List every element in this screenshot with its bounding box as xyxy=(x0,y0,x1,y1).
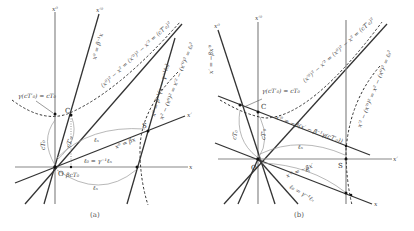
ray-2 xyxy=(258,159,298,204)
caption-b: (b) xyxy=(294,211,304,219)
arc-cT0 xyxy=(48,120,56,165)
origin-label: O xyxy=(58,170,64,178)
x-axis-label: x xyxy=(189,163,193,170)
ln-bottom-label: ℓₙ xyxy=(93,184,98,191)
l-contracted-label: ℓ₀ = γ⁻¹ℓₙ xyxy=(84,157,112,165)
point-C xyxy=(257,111,260,114)
hyperbola-space-label: x′² − (x′⁰)² = x² − (x⁰)² = ℓ₀² xyxy=(355,48,393,128)
line-shift-label: x′⁰ = −β(x′ − β⁻¹γ(cT′₀)) xyxy=(274,113,344,145)
gamma-eq-label: γ(cT′₀) = cT₀ xyxy=(18,92,57,100)
cT0-label: cT₀ xyxy=(230,129,239,140)
point-origin xyxy=(256,157,260,161)
point-S xyxy=(345,158,348,161)
point-gamma xyxy=(239,104,242,107)
ln-top-label: ℓₙ xyxy=(298,143,303,150)
pointer-line xyxy=(36,101,53,113)
pointer-line xyxy=(244,99,262,107)
x-line-label: x′⁰ = −βx′ xyxy=(285,161,316,180)
caption-a: (a) xyxy=(90,211,100,219)
x0-axis-label: x⁰ xyxy=(214,22,220,29)
C-label: C xyxy=(65,107,70,115)
x0-axis-label: x⁰ xyxy=(52,5,58,12)
cTp0-label: cT′₀ xyxy=(259,128,267,140)
x0-prime-axis-label: x′⁰ xyxy=(96,6,104,13)
worldline-S xyxy=(127,38,175,204)
x0-line-label: x′ = −βx′⁰ xyxy=(207,44,215,74)
S-label: S xyxy=(338,162,343,170)
x-axis-label: x xyxy=(374,200,378,207)
cT0-label: cT₀ xyxy=(39,140,46,150)
gamma-eq-label: γ(cT′₀) = cT₀ xyxy=(262,87,301,95)
x-prime-axis-label: x′ xyxy=(393,155,398,162)
point-shift-intercept xyxy=(345,145,347,147)
panel-a: x⁰ x′⁰ x x′ O C S xyxy=(12,5,195,219)
beta-cT-label: βcT₀ xyxy=(65,171,80,179)
point-beta-cT xyxy=(70,166,72,168)
panel-b: x′⁰ x⁰ x′ x xyxy=(207,14,398,219)
point-S xyxy=(147,130,150,133)
point-hyperbola xyxy=(350,194,353,197)
ln-top-label: ℓₙ xyxy=(94,136,99,143)
xp-line-label: x⁰ = βx xyxy=(114,135,137,151)
point-origin xyxy=(53,165,57,169)
C-label: C xyxy=(261,103,266,111)
point-gamma xyxy=(54,113,57,116)
spacetime-diagrams: x⁰ x′⁰ x x′ O C S xyxy=(0,0,414,231)
x0-axis xyxy=(218,30,275,204)
l-contracted-label: ℓ₀ = γ⁻¹ℓₙ xyxy=(288,183,317,204)
point-x-intercept xyxy=(345,192,348,195)
x0-prime-axis-label: x′⁰ xyxy=(255,14,263,21)
point-x-intercept xyxy=(136,166,139,169)
arc-cT0 xyxy=(239,110,257,157)
cTp0-label: cT′₀ xyxy=(64,135,74,148)
S-label: S xyxy=(142,122,147,130)
origin-label: O xyxy=(251,164,257,172)
x-prime-axis-label: x′ xyxy=(187,111,192,118)
